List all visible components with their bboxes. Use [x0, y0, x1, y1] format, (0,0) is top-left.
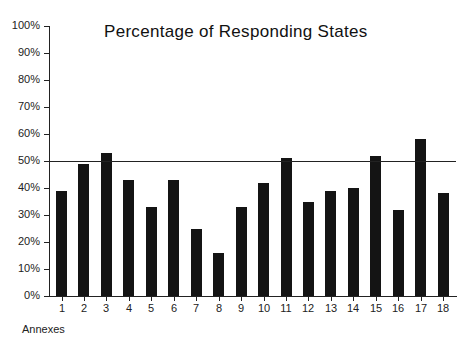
x-tick [174, 297, 175, 301]
x-tick [196, 297, 197, 301]
bar-annex-7 [191, 229, 202, 296]
reference-line-50 [49, 161, 456, 162]
x-tick [443, 297, 444, 301]
bar-annex-16 [393, 210, 404, 296]
x-tick [84, 297, 85, 301]
x-tick-label: 7 [186, 302, 206, 314]
x-tick-label: 8 [209, 302, 229, 314]
bar-annex-13 [325, 191, 336, 296]
x-tick-label: 3 [96, 302, 116, 314]
x-tick-label: 1 [52, 302, 72, 314]
x-tick [331, 297, 332, 301]
bar-annex-5 [146, 207, 157, 296]
bar-annex-9 [236, 207, 247, 296]
x-tick [308, 297, 309, 301]
x-tick [241, 297, 242, 301]
bar-annex-17 [415, 139, 426, 296]
x-tick [106, 297, 107, 301]
y-tick-label: 0% [0, 289, 40, 301]
bar-annex-6 [168, 180, 179, 296]
x-tick [376, 297, 377, 301]
y-tick [44, 26, 49, 27]
x-tick-label: 9 [231, 302, 251, 314]
x-tick-label: 4 [119, 302, 139, 314]
bar-annex-3 [101, 153, 112, 296]
bar-annex-12 [303, 202, 314, 296]
y-tick [44, 242, 49, 243]
x-tick [62, 297, 63, 301]
y-tick-label: 30% [0, 208, 40, 220]
bar-annex-8 [213, 253, 224, 296]
x-tick [219, 297, 220, 301]
bar-annex-2 [78, 164, 89, 296]
y-tick [44, 188, 49, 189]
y-tick [44, 215, 49, 216]
x-tick-label: 11 [276, 302, 296, 314]
bar-annex-1 [56, 191, 67, 296]
x-tick [421, 297, 422, 301]
bar-chart: Percentage of Responding States 0%10%20%… [0, 0, 472, 342]
y-tick [44, 134, 49, 135]
x-tick [151, 297, 152, 301]
y-tick [44, 296, 49, 297]
y-tick [44, 107, 49, 108]
y-tick-label: 80% [0, 73, 40, 85]
y-tick [44, 80, 49, 81]
bar-annex-18 [438, 193, 449, 296]
chart-title: Percentage of Responding States [104, 22, 368, 42]
x-tick-label: 17 [411, 302, 431, 314]
x-tick-label: 5 [141, 302, 161, 314]
y-tick-label: 100% [0, 19, 40, 31]
bar-annex-10 [258, 183, 269, 296]
bar-annex-14 [348, 188, 359, 296]
x-tick [398, 297, 399, 301]
x-tick-label: 15 [366, 302, 386, 314]
x-tick [264, 297, 265, 301]
x-tick [353, 297, 354, 301]
bar-annex-11 [281, 158, 292, 296]
x-tick [129, 297, 130, 301]
x-tick-label: 10 [254, 302, 274, 314]
y-tick [44, 53, 49, 54]
bar-annex-15 [370, 156, 381, 296]
y-tick [44, 269, 49, 270]
x-tick-label: 16 [388, 302, 408, 314]
x-tick-label: 12 [298, 302, 318, 314]
x-tick-label: 14 [343, 302, 363, 314]
y-tick-label: 60% [0, 127, 40, 139]
x-tick-label: 6 [164, 302, 184, 314]
bar-annex-4 [123, 180, 134, 296]
x-tick-label: 18 [433, 302, 453, 314]
y-tick-label: 90% [0, 46, 40, 58]
x-tick [286, 297, 287, 301]
y-tick-label: 20% [0, 235, 40, 247]
x-tick-label: 2 [74, 302, 94, 314]
x-tick-label: 13 [321, 302, 341, 314]
x-axis-title: Annexes [22, 323, 65, 335]
y-tick-label: 10% [0, 262, 40, 274]
y-tick-label: 70% [0, 100, 40, 112]
y-tick-label: 40% [0, 181, 40, 193]
y-tick-label: 50% [0, 154, 40, 166]
